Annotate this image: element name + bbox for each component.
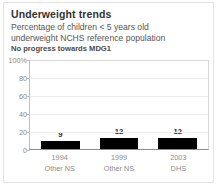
y-axis-tick-mark bbox=[27, 132, 30, 133]
card-header: Underweight trends Percentage of childre… bbox=[4, 3, 213, 54]
bar-series: 91212 bbox=[31, 60, 207, 149]
y-axis-tick-label: 100% bbox=[3, 57, 27, 64]
y-axis-tick-mark bbox=[27, 78, 30, 79]
x-axis-label-year: 1999 bbox=[89, 153, 148, 164]
y-axis-tick-label: 0 bbox=[3, 147, 27, 154]
y-axis-tick-mark bbox=[27, 114, 30, 115]
x-axis-label: 1999Other NS bbox=[89, 153, 148, 174]
y-axis-tick-label: 40 bbox=[3, 111, 27, 118]
x-axis-label: 1994Other NS bbox=[30, 153, 89, 174]
x-axis-labels: 1994Other NS1999Other NS2003DHS bbox=[30, 153, 208, 179]
bar-slot: 12 bbox=[90, 60, 149, 149]
underweight-bar-chart: 020406080100% 91212 1994Other NS1999Othe… bbox=[4, 53, 214, 183]
page-title: Underweight trends bbox=[11, 8, 213, 21]
x-axis-label-year: 2003 bbox=[149, 153, 208, 164]
subtitle-line-1: Percentage of children < 5 years old bbox=[11, 22, 213, 33]
y-axis-tick-mark bbox=[27, 96, 30, 97]
bar[interactable] bbox=[158, 138, 197, 149]
gridline bbox=[30, 114, 208, 115]
gridline bbox=[30, 78, 208, 79]
x-axis-label-year: 1994 bbox=[30, 153, 89, 164]
x-axis-label-source: DHS bbox=[149, 164, 208, 175]
bar-slot: 12 bbox=[148, 60, 207, 149]
underweight-trends-card: Underweight trends Percentage of childre… bbox=[3, 2, 214, 183]
y-axis-tick-label: 20 bbox=[3, 129, 27, 136]
bar[interactable] bbox=[41, 141, 80, 149]
bar[interactable] bbox=[100, 138, 139, 149]
y-axis-tick-label: 80 bbox=[3, 75, 27, 82]
x-axis-label-source: Other NS bbox=[89, 164, 148, 175]
plot-area: 91212 bbox=[29, 60, 209, 150]
gridline bbox=[30, 96, 208, 97]
x-axis-label: 2003DHS bbox=[149, 153, 208, 174]
y-axis: 020406080100% bbox=[4, 60, 27, 151]
subtitle-line-2: underweight NCHS reference population bbox=[11, 33, 213, 44]
y-axis-tick-label: 60 bbox=[3, 93, 27, 100]
y-axis-tick-mark bbox=[27, 150, 30, 151]
gridline bbox=[30, 60, 208, 61]
y-axis-tick-mark bbox=[27, 60, 30, 61]
gridline bbox=[30, 132, 208, 133]
bar-slot: 9 bbox=[31, 60, 90, 149]
x-axis-label-source: Other NS bbox=[30, 164, 89, 175]
